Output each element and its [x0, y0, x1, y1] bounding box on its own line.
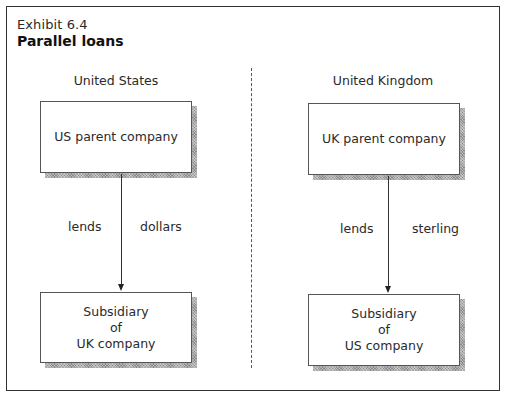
uk-parent-company-label: UK parent company [322, 131, 446, 147]
region-label-united-states: United States [36, 73, 196, 88]
subsidiary-us-line-2: of [309, 322, 459, 338]
us-loan-arrow-shaft [121, 174, 122, 285]
us-flow-currency-label: dollars [140, 219, 182, 234]
uk-flow-currency-label: sterling [412, 221, 459, 236]
subsidiary-uk-line-2: of [41, 320, 191, 336]
us-parent-company-box: US parent company [40, 101, 192, 173]
us-parent-company-label: US parent company [54, 129, 178, 145]
subsidiary-of-uk-company-label: Subsidiary of UK company [41, 304, 191, 352]
uk-loan-arrow-shaft [388, 176, 389, 287]
region-label-united-kingdom: United Kingdom [303, 73, 463, 88]
subsidiary-of-us-company-label: Subsidiary of US company [309, 306, 459, 354]
us-flow-verb-label: lends [68, 219, 102, 234]
subsidiary-uk-line-1: Subsidiary [41, 304, 191, 320]
uk-loan-arrowhead-icon [385, 286, 391, 293]
subsidiary-uk-line-3: UK company [41, 336, 191, 352]
country-divider-dashed-line [251, 68, 252, 368]
uk-parent-company-box: UK parent company [308, 103, 460, 175]
subsidiary-us-line-1: Subsidiary [309, 306, 459, 322]
exhibit-number: Exhibit 6.4 [17, 17, 88, 32]
us-loan-arrowhead-icon [118, 284, 124, 291]
subsidiary-of-uk-company-box: Subsidiary of UK company [40, 292, 192, 363]
exhibit-title: Parallel loans [17, 33, 124, 49]
subsidiary-of-us-company-box: Subsidiary of US company [308, 294, 460, 366]
subsidiary-us-line-3: US company [309, 338, 459, 354]
uk-flow-verb-label: lends [340, 221, 374, 236]
